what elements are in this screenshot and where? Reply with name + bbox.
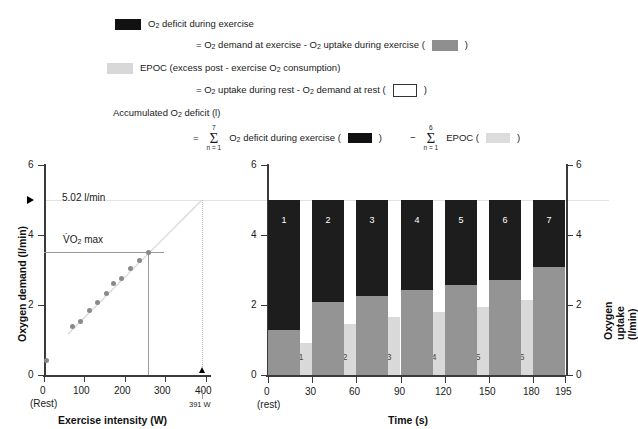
bar-label-7: 7 xyxy=(533,215,565,225)
right-y-axis-title: Oxygen uptake (l/min) xyxy=(602,301,638,340)
bar-label-6: 6 xyxy=(489,215,521,225)
right2-ytick-0 xyxy=(567,375,573,376)
bar-label-4: 4 xyxy=(401,215,433,225)
uptake-bar-5 xyxy=(445,285,477,375)
right-xtick-90 xyxy=(401,377,402,383)
uptake-bar-3 xyxy=(356,296,388,375)
right2-ytick-4 xyxy=(567,235,573,236)
data-point xyxy=(70,324,75,329)
uptake-bar-6 xyxy=(489,280,521,375)
right-ytick-label-4: 4 xyxy=(251,229,257,240)
left-x-axis-title: Exercise intensity (W) xyxy=(58,414,167,426)
data-point xyxy=(111,281,116,286)
right-xtick-120 xyxy=(445,377,446,383)
right-x-axis xyxy=(266,375,566,377)
deficit-bar-5 xyxy=(445,200,477,285)
uptake-bar-4 xyxy=(401,290,433,375)
right-xtick-label-0: 0 xyxy=(264,386,270,397)
right-xtick-60 xyxy=(356,377,357,383)
right-x-axis-title: Time (s) xyxy=(388,414,428,426)
data-point-rest xyxy=(44,358,49,363)
data-point xyxy=(128,266,133,271)
data-point xyxy=(78,319,83,324)
data-point xyxy=(119,276,124,281)
right-ytick-4 xyxy=(261,235,267,236)
deficit-bar-7 xyxy=(533,200,565,267)
right-xtick-label-195: 195 xyxy=(555,386,572,397)
deficit-bar-6 xyxy=(489,200,521,280)
right-rest-label: (rest) xyxy=(257,399,280,410)
bar-label-5: 5 xyxy=(445,215,477,225)
right-xtick-label-180: 180 xyxy=(523,386,540,397)
right-xtick-180 xyxy=(533,377,534,383)
right-xtick-label-60: 60 xyxy=(349,386,360,397)
right-xtick-0 xyxy=(268,377,269,383)
right-ytick-6 xyxy=(261,165,267,166)
data-point xyxy=(87,308,92,313)
right2-ytick-label-6: 6 xyxy=(576,159,582,170)
bar-label-1: 1 xyxy=(268,215,300,225)
right2-ytick-label-2: 2 xyxy=(576,299,582,310)
right2-ytick-label-0: 0 xyxy=(576,369,582,380)
right-ytick-0 xyxy=(261,375,267,376)
right-xtick-label-150: 150 xyxy=(479,386,496,397)
data-point xyxy=(104,291,109,296)
right-xtick-label-30: 30 xyxy=(305,386,316,397)
uptake-bar-7 xyxy=(533,267,565,375)
right2-ytick-label-4: 4 xyxy=(576,229,582,240)
data-point xyxy=(137,258,142,263)
right2-ytick-6 xyxy=(567,165,573,166)
right-xtick-150 xyxy=(489,377,490,383)
right-ytick-label-0: 0 xyxy=(251,369,257,380)
uptake-bar-1 xyxy=(268,330,300,375)
right-xtick-label-120: 120 xyxy=(435,386,452,397)
right-xtick-30 xyxy=(312,377,313,383)
right-xtick-label-90: 90 xyxy=(394,386,405,397)
right-y-axis-right xyxy=(566,164,568,376)
right-ytick-label-6: 6 xyxy=(251,159,257,170)
bar-label-3: 3 xyxy=(356,215,388,225)
right-ytick-label-2: 2 xyxy=(251,299,257,310)
data-point xyxy=(95,300,100,305)
left-y-axis-title: Oxygen demand (l/min) xyxy=(16,226,28,342)
right2-ytick-2 xyxy=(567,305,573,306)
deficit-bar-4 xyxy=(401,200,433,290)
data-point xyxy=(146,250,151,255)
right-xtick-195 xyxy=(565,377,566,383)
uptake-bar-2 xyxy=(312,302,344,375)
right-ytick-2 xyxy=(261,305,267,306)
bar-label-2: 2 xyxy=(312,215,344,225)
